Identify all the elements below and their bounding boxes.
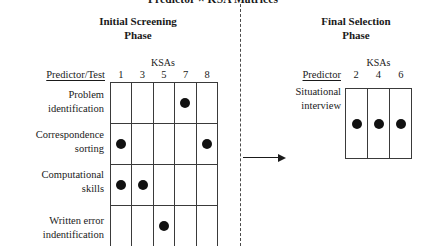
matrix-row (111, 206, 217, 246)
initial-phase-heading-line2: Phase (48, 28, 228, 42)
final-ksas-caption: KSAs (345, 57, 412, 68)
initial-phase-heading-line1: Initial Screening (48, 14, 228, 28)
matrix-cell[interactable] (175, 83, 196, 123)
arrow-head (278, 154, 286, 162)
initial-row-label-line2: sorting (0, 142, 104, 156)
final-predictor-label: Predictor (245, 69, 341, 80)
final-phase-heading-line1: Final Selection (288, 14, 424, 28)
matrix-cell[interactable] (132, 206, 153, 246)
initial-column-header: 1 (110, 68, 132, 81)
initial-row-label-line1: Computational (0, 168, 104, 182)
initial-row-label-line2: skills (0, 182, 104, 196)
matrix-cell[interactable] (111, 83, 132, 123)
matrix-cell[interactable] (175, 165, 196, 205)
matrix-cell[interactable] (154, 206, 175, 246)
final-phase-heading: Final Selection Phase (288, 14, 424, 42)
matrix-cell[interactable] (346, 89, 368, 158)
matrix-cell[interactable] (368, 89, 390, 158)
final-phase-heading-line2: Phase (288, 28, 424, 42)
matrix-cell[interactable] (197, 206, 217, 246)
matrix-cell[interactable] (197, 83, 217, 123)
initial-row-label-line2: indentification (0, 228, 104, 242)
initial-row-label: Correspondence sorting (0, 128, 104, 155)
cell-dot (374, 119, 384, 129)
final-selection-matrix (345, 88, 412, 159)
matrix-cell[interactable] (197, 124, 217, 164)
final-row-label-line1: Situational (243, 85, 341, 99)
matrix-row (111, 124, 217, 165)
phase-flow-arrow (243, 152, 287, 164)
matrix-cell[interactable] (111, 124, 132, 164)
initial-predictor-label: Predictor/Test (5, 69, 105, 80)
final-column-headers: 2 4 6 (345, 68, 412, 81)
phase-divider (240, 4, 241, 246)
matrix-cell[interactable] (154, 124, 175, 164)
cell-dot (116, 180, 126, 190)
initial-column-headers: 1 3 5 7 8 (110, 68, 218, 81)
matrix-cell[interactable] (111, 206, 132, 246)
initial-column-header: 5 (153, 68, 175, 81)
matrix-cell[interactable] (132, 83, 153, 123)
figure-title: Predictor × KSA Matrices (0, 0, 426, 5)
matrix-cell[interactable] (111, 165, 132, 205)
cell-dot (352, 119, 362, 129)
final-column-header: 4 (367, 68, 389, 81)
initial-row-label: Computational skills (0, 168, 104, 195)
cell-dot (396, 119, 406, 129)
initial-screening-matrix (110, 82, 218, 246)
arrow-shaft (243, 157, 280, 158)
cell-dot (180, 98, 190, 108)
initial-column-header: 8 (196, 68, 218, 81)
final-row-label: Situational interview (243, 85, 341, 113)
initial-row-label-line2: identification (0, 102, 104, 116)
initial-row-label-line1: Correspondence (0, 128, 104, 142)
matrix-cell[interactable] (154, 165, 175, 205)
matrix-cell[interactable] (132, 165, 153, 205)
final-column-header: 2 (345, 68, 367, 81)
cell-dot (138, 180, 148, 190)
matrix-row (111, 165, 217, 206)
final-column-header: 6 (390, 68, 412, 81)
initial-column-header: 3 (132, 68, 154, 81)
initial-ksas-caption: KSAs (108, 57, 218, 68)
cell-dot (159, 221, 169, 231)
matrix-cell[interactable] (197, 165, 217, 205)
matrix-row (111, 83, 217, 124)
matrix-cell[interactable] (154, 83, 175, 123)
initial-row-label-line1: Written error (0, 214, 104, 228)
initial-phase-heading: Initial Screening Phase (48, 14, 228, 42)
matrix-cell[interactable] (175, 124, 196, 164)
initial-row-label: Written error indentification (0, 214, 104, 241)
initial-row-label-line1: Problem (0, 88, 104, 102)
initial-column-header: 7 (175, 68, 197, 81)
matrix-cell[interactable] (132, 124, 153, 164)
final-row-label-line2: interview (243, 99, 341, 113)
matrix-row (346, 89, 411, 158)
cell-dot (202, 139, 212, 149)
cell-dot (116, 139, 126, 149)
matrix-cell[interactable] (390, 89, 411, 158)
matrix-cell[interactable] (175, 206, 196, 246)
initial-row-label: Problem identification (0, 88, 104, 115)
